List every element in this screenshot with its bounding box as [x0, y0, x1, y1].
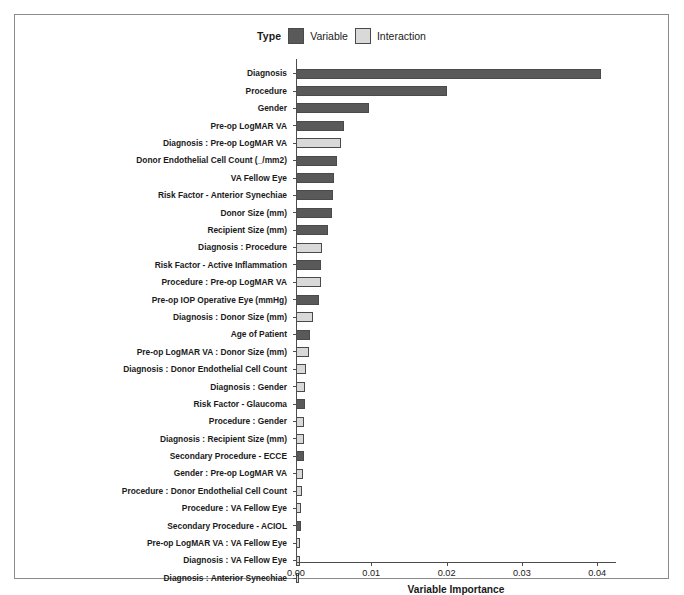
bar[interactable] [296, 469, 303, 479]
bar-row: Pre-op LogMAR VA : Donor Size (mm) [15, 343, 670, 360]
plot-panel: DiagnosisProcedureGenderPre-op LogMAR VA… [15, 55, 670, 580]
bar-row: Gender [15, 100, 670, 117]
bar[interactable] [296, 260, 321, 270]
bar-row-label: Diagnosis : Gender [15, 383, 293, 391]
bar-row: Age of Patient [15, 326, 670, 343]
bar[interactable] [296, 382, 305, 392]
bar-row: Donor Size (mm) [15, 204, 670, 221]
bar-row: Diagnosis [15, 65, 670, 82]
bar-row: Diagnosis : Donor Size (mm) [15, 308, 670, 325]
bar[interactable] [296, 208, 332, 218]
bar-row-label: Diagnosis : Anterior Synechiae [15, 574, 293, 582]
bar-row: Diagnosis : VA Fellow Eye [15, 552, 670, 569]
bar[interactable] [296, 121, 344, 131]
bar[interactable] [296, 103, 369, 113]
bar-row: Recipient Size (mm) [15, 222, 670, 239]
x-axis-tick [296, 563, 297, 566]
figure-frame: Type Variable Interaction DiagnosisProce… [14, 14, 669, 579]
y-axis-line [296, 59, 297, 562]
bar-row: Pre-op LogMAR VA : VA Fellow Eye [15, 535, 670, 552]
bar-row: Risk Factor - Anterior Synechiae [15, 187, 670, 204]
bar-row: Secondary Procedure - ACIOL [15, 517, 670, 534]
x-axis-tick-label: 0.03 [513, 568, 531, 578]
legend-item-variable[interactable]: Variable [288, 28, 348, 44]
bar-row-label: Risk Factor - Glaucoma [15, 400, 293, 408]
bar-row-label: Risk Factor - Anterior Synechiae [15, 191, 293, 199]
bar[interactable] [296, 295, 319, 305]
bar[interactable] [296, 347, 309, 357]
bar[interactable] [296, 225, 328, 235]
legend: Type Variable Interaction [15, 27, 668, 45]
bar[interactable] [296, 277, 321, 287]
bar[interactable] [296, 312, 313, 322]
bar[interactable] [296, 364, 306, 374]
bar-track [296, 430, 670, 447]
bar-track [296, 204, 670, 221]
bar-row-label: Diagnosis : Recipient Size (mm) [15, 435, 293, 443]
bar-row-label: Donor Endothelial Cell Count (_/mm2) [15, 156, 293, 164]
bar-row: Diagnosis : Donor Endothelial Cell Count [15, 361, 670, 378]
bar[interactable] [296, 451, 304, 461]
bar-track [296, 552, 670, 569]
bar-row: Pre-op LogMAR VA [15, 117, 670, 134]
bar-row: Gender : Pre-op LogMAR VA [15, 465, 670, 482]
bar-track [296, 413, 670, 430]
bar[interactable] [296, 156, 337, 166]
bar-row: Diagnosis : Recipient Size (mm) [15, 430, 670, 447]
bar-row: Risk Factor - Glaucoma [15, 395, 670, 412]
bar[interactable] [296, 330, 310, 340]
x-axis-tick [597, 563, 598, 566]
bar-row-label: Secondary Procedure - ACIOL [15, 522, 293, 530]
bar-row-label: Gender : Pre-op LogMAR VA [15, 469, 293, 477]
x-axis-tick [522, 563, 523, 566]
bar-row-label: Gender [15, 104, 293, 112]
bar-row: Procedure : VA Fellow Eye [15, 500, 670, 517]
bar-track [296, 465, 670, 482]
bar-row-label: Pre-op IOP Operative Eye (mmHg) [15, 296, 293, 304]
bar[interactable] [296, 434, 304, 444]
bar-track [296, 152, 670, 169]
bar-row-label: Diagnosis : Pre-op LogMAR VA [15, 139, 293, 147]
bar-row-label: Pre-op LogMAR VA : Donor Size (mm) [15, 348, 293, 356]
bar-track [296, 117, 670, 134]
bar[interactable] [296, 173, 334, 183]
bar-track [296, 482, 670, 499]
bar-row: Diagnosis : Procedure [15, 239, 670, 256]
x-axis-tick-label: 0.02 [438, 568, 456, 578]
bar-row-label: Procedure : Gender [15, 417, 293, 425]
bar-row-label: Secondary Procedure - ECCE [15, 452, 293, 460]
bar-track [296, 256, 670, 273]
bar-row-label: Pre-op LogMAR VA : VA Fellow Eye [15, 539, 293, 547]
bar-row: Secondary Procedure - ECCE [15, 448, 670, 465]
bar-row-label: Procedure : Pre-op LogMAR VA [15, 278, 293, 286]
bar[interactable] [296, 190, 333, 200]
bar-row-label: Pre-op LogMAR VA [15, 122, 293, 130]
bar-track [296, 378, 670, 395]
bar-track [296, 82, 670, 99]
bar-track [296, 361, 670, 378]
bar[interactable] [296, 86, 447, 96]
x-axis-line [296, 562, 616, 563]
bar-row-label: Diagnosis : Donor Endothelial Cell Count [15, 365, 293, 373]
bar-row: Donor Endothelial Cell Count (_/mm2) [15, 152, 670, 169]
legend-label-variable: Variable [310, 30, 348, 42]
bar-row: Risk Factor - Active Inflammation [15, 256, 670, 273]
bar[interactable] [296, 69, 601, 79]
bar-row-label: Donor Size (mm) [15, 209, 293, 217]
legend-item-interaction[interactable]: Interaction [355, 28, 426, 44]
x-axis-tick [371, 563, 372, 566]
bar-track [296, 395, 670, 412]
bar-row: VA Fellow Eye [15, 169, 670, 186]
bar-row-label: Diagnosis : Donor Size (mm) [15, 313, 293, 321]
bar-track [296, 274, 670, 291]
bar-track [296, 239, 670, 256]
bar[interactable] [296, 243, 322, 253]
bar-track [296, 65, 670, 82]
bar-row-label: Diagnosis [15, 69, 293, 77]
bar[interactable] [296, 417, 304, 427]
x-axis-title: Variable Importance [296, 584, 616, 595]
bar[interactable] [296, 138, 341, 148]
bar-row: Pre-op IOP Operative Eye (mmHg) [15, 291, 670, 308]
bar-row-label: Risk Factor - Active Inflammation [15, 261, 293, 269]
bar[interactable] [296, 399, 305, 409]
